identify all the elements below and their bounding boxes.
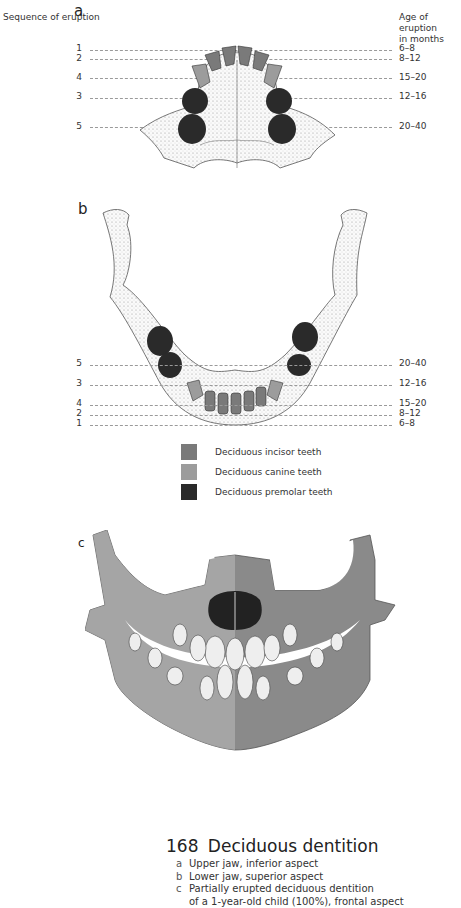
caption-a: aUpper jaw, inferior aspect bbox=[176, 858, 404, 871]
legend-label: Deciduous incisor teeth bbox=[215, 447, 321, 457]
age-range: 20–40 bbox=[399, 358, 426, 368]
age-range: 15–20 bbox=[399, 398, 426, 408]
guide-line bbox=[90, 385, 392, 386]
swatch-incisor bbox=[181, 444, 197, 460]
upper-jaw-illustration bbox=[120, 40, 355, 175]
seq-number: 2 bbox=[70, 408, 82, 418]
age-range: 12–16 bbox=[399, 378, 426, 388]
age-range: 6–8 bbox=[399, 43, 415, 53]
seq-number: 4 bbox=[70, 72, 82, 82]
guide-line bbox=[90, 405, 392, 406]
caption-b: bLower jaw, superior aspect bbox=[176, 871, 404, 884]
caption-c: cPartially erupted deciduous dentition bbox=[176, 883, 404, 896]
figure-title: 168 Deciduous dentition bbox=[166, 836, 404, 856]
swatch-premolar bbox=[181, 484, 197, 500]
seq-number: 1 bbox=[70, 43, 82, 53]
figure-caption: 168 Deciduous dentition aUpper jaw, infe… bbox=[166, 836, 404, 908]
seq-number: 1 bbox=[70, 418, 82, 428]
child-skull-frontal-illustration bbox=[85, 530, 405, 760]
age-range: 8–12 bbox=[399, 53, 421, 63]
legend-item-premolar: Deciduous premolar teeth bbox=[181, 483, 333, 501]
sequence-header: Sequence of eruption bbox=[3, 12, 100, 23]
guide-line bbox=[90, 425, 392, 426]
age-range: 8–12 bbox=[399, 408, 421, 418]
age-range: 12–16 bbox=[399, 91, 426, 101]
caption-list: aUpper jaw, inferior aspect bLower jaw, … bbox=[176, 858, 404, 908]
lower-jaw-illustration bbox=[95, 205, 375, 430]
legend-label: Deciduous canine teeth bbox=[215, 467, 322, 477]
age-header: Age of eruption in months bbox=[399, 12, 461, 45]
guide-line bbox=[90, 365, 392, 366]
caption-c-cont: of a 1-year-old child (100%), frontal as… bbox=[176, 896, 404, 908]
guide-line bbox=[90, 415, 392, 416]
legend-label: Deciduous premolar teeth bbox=[215, 487, 333, 497]
legend-item-incisor: Deciduous incisor teeth bbox=[181, 443, 321, 461]
age-range: 6–8 bbox=[399, 418, 415, 428]
age-range: 15–20 bbox=[399, 72, 426, 82]
seq-number: 5 bbox=[70, 358, 82, 368]
seq-number: 3 bbox=[70, 91, 82, 101]
seq-number: 4 bbox=[70, 398, 82, 408]
seq-number: 2 bbox=[70, 53, 82, 63]
panel-label-b: b bbox=[78, 200, 88, 218]
panel-label-c: c bbox=[78, 536, 85, 550]
age-range: 20–40 bbox=[399, 121, 426, 131]
seq-number: 5 bbox=[70, 121, 82, 131]
swatch-canine bbox=[181, 464, 197, 480]
legend-item-canine: Deciduous canine teeth bbox=[181, 463, 322, 481]
seq-number: 3 bbox=[70, 378, 82, 388]
